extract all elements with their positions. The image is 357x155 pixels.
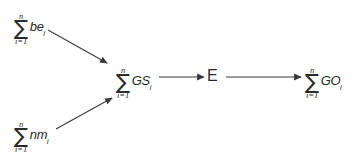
sigma-stack: n ∑ i=1 bbox=[305, 66, 319, 99]
sigma-icon: ∑ bbox=[305, 74, 319, 91]
sigma-lower-limit: i=1 bbox=[117, 91, 129, 100]
node-sum-be: n ∑ i=1 bei bbox=[14, 6, 45, 45]
summation-subscript: i bbox=[150, 83, 152, 92]
node-e: E bbox=[207, 68, 218, 84]
sigma-stack: n ∑ i=1 bbox=[116, 66, 130, 99]
arrow-layer bbox=[0, 0, 357, 155]
summation-expression: n ∑ i=1 GSi bbox=[116, 66, 152, 99]
sigma-lower-limit: i=1 bbox=[306, 91, 318, 100]
edge-be-to-gs bbox=[48, 30, 107, 63]
node-sum-go: n ∑ i=1 GOi bbox=[305, 60, 342, 99]
summation-expression: n ∑ i=1 bei bbox=[14, 12, 45, 45]
summation-subscript: i bbox=[43, 29, 45, 38]
sigma-stack: n ∑ i=1 bbox=[14, 120, 28, 153]
summation-body: GOi bbox=[321, 74, 342, 91]
sigma-icon: ∑ bbox=[116, 74, 130, 91]
summation-variable: GS bbox=[132, 73, 150, 88]
sigma-stack: n ∑ i=1 bbox=[14, 12, 28, 45]
summation-expression: n ∑ i=1 GOi bbox=[305, 66, 342, 99]
sigma-lower-limit: i=1 bbox=[15, 37, 27, 46]
diagram-canvas: n ∑ i=1 bei n ∑ i=1 nmi n ∑ i=1 GSi bbox=[0, 0, 357, 155]
sigma-icon: ∑ bbox=[14, 128, 28, 145]
summation-expression: n ∑ i=1 nmi bbox=[14, 120, 49, 153]
summation-body: nmi bbox=[30, 128, 49, 145]
summation-variable: be bbox=[30, 19, 44, 34]
summation-subscript: i bbox=[47, 137, 49, 146]
sigma-icon: ∑ bbox=[14, 20, 28, 37]
summation-variable: nm bbox=[30, 127, 48, 142]
node-sum-nm: n ∑ i=1 nmi bbox=[14, 114, 49, 153]
edge-nm-to-gs bbox=[56, 98, 112, 129]
summation-body: bei bbox=[30, 20, 46, 37]
node-sum-gs: n ∑ i=1 GSi bbox=[116, 60, 152, 99]
summation-variable: GO bbox=[321, 73, 341, 88]
sigma-lower-limit: i=1 bbox=[15, 145, 27, 154]
summation-body: GSi bbox=[132, 74, 152, 91]
summation-subscript: i bbox=[340, 83, 342, 92]
